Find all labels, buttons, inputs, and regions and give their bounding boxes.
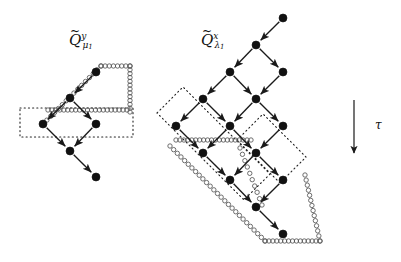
left-node: [92, 173, 100, 181]
right-node: [226, 176, 234, 184]
right-node: [279, 176, 287, 184]
right-node: [252, 41, 260, 49]
left-node: [66, 94, 74, 102]
right-node: [252, 203, 260, 211]
left-node: [92, 68, 100, 76]
right-node: [172, 122, 180, 130]
right-node: [199, 149, 207, 157]
tau-label: τ: [375, 118, 382, 132]
right-node: [279, 230, 287, 238]
left-node: [92, 120, 100, 128]
right-node: [252, 95, 260, 103]
right-node: [279, 122, 287, 130]
right-node: [279, 68, 287, 76]
right-node: [226, 122, 234, 130]
left-quiver-subscript-index: 1: [88, 43, 92, 51]
left-quiver-tilde: ~: [70, 24, 80, 38]
right-node: [199, 95, 207, 103]
right-quiver-tilde: ~: [202, 24, 212, 38]
left-node: [66, 147, 74, 155]
right-node: [252, 149, 260, 157]
right-node: [226, 68, 234, 76]
left-node: [39, 120, 47, 128]
left-quiver-subscript: μ1: [82, 40, 92, 50]
right-quiver-subscript-index: 1: [220, 43, 224, 51]
right-quiver-label: Q~xλ1: [201, 31, 225, 51]
right-quiver-subscript: λ1: [214, 40, 224, 50]
right-node: [279, 14, 287, 22]
left-quiver-label: Q~yμ1: [69, 31, 93, 51]
